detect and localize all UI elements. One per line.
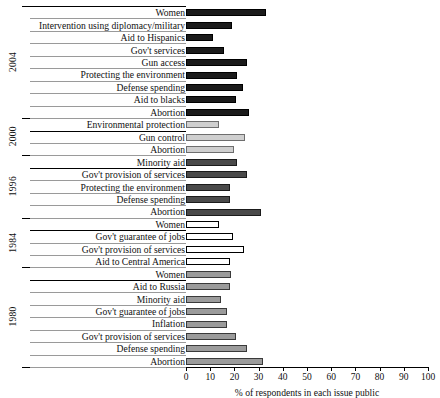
- category-label: Abortion: [150, 356, 185, 367]
- category-label: Intervention using diplomacy/military: [39, 20, 185, 31]
- year-group-label: 1984: [0, 218, 26, 268]
- year-group-separator: [22, 218, 30, 219]
- bar: [186, 271, 231, 278]
- category-label: Gov't provision of services: [82, 331, 185, 342]
- bar: [186, 358, 263, 365]
- x-axis-tick: [259, 367, 260, 371]
- x-axis-title: % of respondents in each issue public: [186, 387, 428, 398]
- category-label: Protecting the environment: [81, 182, 185, 193]
- bar: [186, 321, 227, 328]
- category-label: Gun control: [139, 132, 185, 143]
- x-axis-tick: [355, 367, 356, 371]
- year-group-separator: [22, 367, 30, 368]
- x-axis-tick: [380, 367, 381, 371]
- category-label: Aid to Russia: [133, 281, 185, 292]
- bar: [186, 184, 230, 191]
- bar: [186, 221, 219, 228]
- bar: [186, 121, 219, 128]
- bar: [186, 159, 237, 166]
- year-group-label: 2000: [0, 118, 26, 155]
- category-label: Gov't guarantee of jobs: [96, 306, 185, 317]
- category-label: Women: [155, 269, 185, 280]
- bar: [186, 47, 224, 54]
- plot-area: % of respondents in each issue public Wo…: [30, 0, 434, 340]
- bar: [186, 59, 247, 66]
- bar: [186, 22, 232, 29]
- category-label: Gov't provision of services: [82, 169, 185, 180]
- x-axis-tick: [283, 367, 284, 371]
- bar: [186, 296, 221, 303]
- bar: [186, 34, 213, 41]
- x-axis-tick: [307, 367, 308, 371]
- year-group-label: 1980: [0, 267, 26, 367]
- category-label: Minority aid: [137, 294, 185, 305]
- category-label: Abortion: [150, 144, 185, 155]
- bar: [186, 84, 243, 91]
- bar: [186, 246, 244, 253]
- category-label: Aid to Hispanics: [121, 32, 186, 43]
- bar: [186, 283, 230, 290]
- bar: [186, 171, 247, 178]
- category-label: Gov't provision of services: [82, 244, 185, 255]
- x-axis-tick: [210, 367, 211, 371]
- row-separator: [30, 367, 186, 368]
- x-axis-tick: [428, 367, 429, 371]
- x-axis-tick: [186, 367, 187, 371]
- bar: [186, 109, 249, 116]
- bar: [186, 258, 230, 265]
- x-axis-tick: [331, 367, 332, 371]
- year-group-separator: [22, 6, 30, 7]
- category-label: Inflation: [152, 318, 185, 329]
- bar: [186, 333, 236, 340]
- year-group-axis: 20042000199619841980: [0, 0, 30, 340]
- category-label: Aid to Central America: [95, 256, 185, 267]
- year-group-separator: [22, 155, 30, 156]
- bar: [186, 72, 237, 79]
- category-label: Aid to blacks: [134, 94, 185, 105]
- category-label: Defense spending: [117, 343, 185, 354]
- bar: [186, 146, 234, 153]
- bar: [186, 308, 227, 315]
- category-label: Gov't guarantee of jobs: [96, 231, 185, 242]
- x-axis-tick: [234, 367, 235, 371]
- category-label: Defense spending: [117, 82, 185, 93]
- bar: [186, 96, 236, 103]
- bar: [186, 345, 247, 352]
- bar: [186, 134, 245, 141]
- bar: [186, 9, 266, 16]
- year-group-separator: [22, 267, 30, 268]
- category-label: Women: [155, 7, 185, 18]
- category-label: Defense spending: [117, 194, 185, 205]
- category-label: Abortion: [150, 206, 185, 217]
- category-label: Gov't services: [131, 45, 185, 56]
- category-label: Abortion: [150, 107, 185, 118]
- x-axis-tick-label: 100: [413, 372, 440, 382]
- bar: [186, 233, 233, 240]
- category-label: Minority aid: [137, 157, 185, 168]
- category-label: Women: [155, 219, 185, 230]
- year-group-label: 1996: [0, 155, 26, 217]
- year-group-separator: [22, 118, 30, 119]
- bar: [186, 209, 261, 216]
- category-label: Environmental protection: [87, 119, 185, 130]
- x-axis-tick: [404, 367, 405, 371]
- bar: [186, 196, 230, 203]
- category-label: Protecting the environment: [81, 69, 185, 80]
- category-label: Gun access: [142, 57, 185, 68]
- year-group-label: 2004: [0, 6, 26, 118]
